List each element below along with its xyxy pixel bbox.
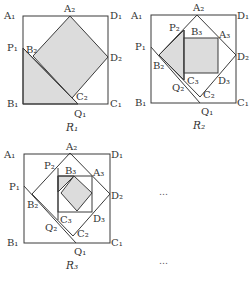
label-p2: P₂ <box>44 160 55 171</box>
label-b2: B₂ <box>26 44 37 55</box>
label-d1: D₁ <box>237 10 249 21</box>
figure-r3: A₁ A₂ D₁ P₂ B₃ A₃ P₁ D₂ B₂ C₃ D₃ Q₂ C₂ B… <box>3 141 123 271</box>
label-b3: B₃ <box>65 165 76 176</box>
label-c3: C₃ <box>60 214 72 225</box>
label-c2: C₂ <box>76 91 88 102</box>
label-q2: Q₂ <box>172 82 184 93</box>
label-c1: C₁ <box>111 237 123 248</box>
caption-r1: R₁ <box>65 121 78 133</box>
label-c2: C₂ <box>203 89 215 100</box>
label-a1: A₁ <box>130 10 142 21</box>
shaded-triangle <box>159 30 184 80</box>
label-q1: Q₁ <box>201 106 213 117</box>
label-c2: C₂ <box>77 228 89 239</box>
figure-sequence: A₁ A₂ D₁ D₂ P₁ B₂ B₁ C₂ Q₁ C₁ R₁ A₁ A₂ D… <box>0 0 251 283</box>
label-b3: B₃ <box>191 26 202 37</box>
shaded-square <box>184 38 218 73</box>
label-a1: A₁ <box>3 10 15 21</box>
figure-r2: A₁ A₂ D₁ P₂ B₃ A₃ P₁ D₂ B₂ C₃ D₃ Q₂ C₂ B… <box>130 2 249 131</box>
label-q1: Q₁ <box>74 246 86 257</box>
label-a2: A₂ <box>65 141 77 152</box>
label-a2: A₂ <box>192 2 204 13</box>
label-b2: B₂ <box>153 60 164 71</box>
label-q1: Q₁ <box>74 108 86 119</box>
ellipsis-upper: … <box>159 187 168 197</box>
label-a3: A₃ <box>218 29 230 40</box>
label-b1: B₁ <box>135 97 146 108</box>
label-p2: P₂ <box>169 22 180 33</box>
label-b2: B₂ <box>27 199 38 210</box>
label-b1: B₁ <box>7 237 18 248</box>
label-c1: C₁ <box>110 98 122 109</box>
label-d2: D₂ <box>111 190 123 201</box>
figure-r1: A₁ A₂ D₁ D₂ P₁ B₂ B₁ C₂ Q₁ C₁ R₁ <box>3 3 122 133</box>
ellipsis-lower: … <box>159 256 168 266</box>
label-d1: D₁ <box>111 149 123 160</box>
label-p1: P₁ <box>9 181 20 192</box>
label-a3: A₃ <box>92 167 104 178</box>
label-d3: D₃ <box>93 213 105 224</box>
label-a1: A₁ <box>3 149 15 160</box>
caption-r3: R₃ <box>65 259 78 271</box>
label-d2: D₂ <box>237 51 249 62</box>
label-d1: D₁ <box>110 10 122 21</box>
label-p1: P₁ <box>135 41 146 52</box>
label-b1: B₁ <box>7 98 18 109</box>
label-c1: C₁ <box>237 97 249 108</box>
label-c3: C₃ <box>187 75 199 86</box>
caption-r2: R₂ <box>192 119 205 131</box>
label-d3: D₃ <box>218 75 230 86</box>
label-p1: P₁ <box>7 42 18 53</box>
label-d2: D₂ <box>110 52 122 63</box>
label-a2: A₂ <box>63 3 75 14</box>
label-q2: Q₂ <box>45 222 57 233</box>
